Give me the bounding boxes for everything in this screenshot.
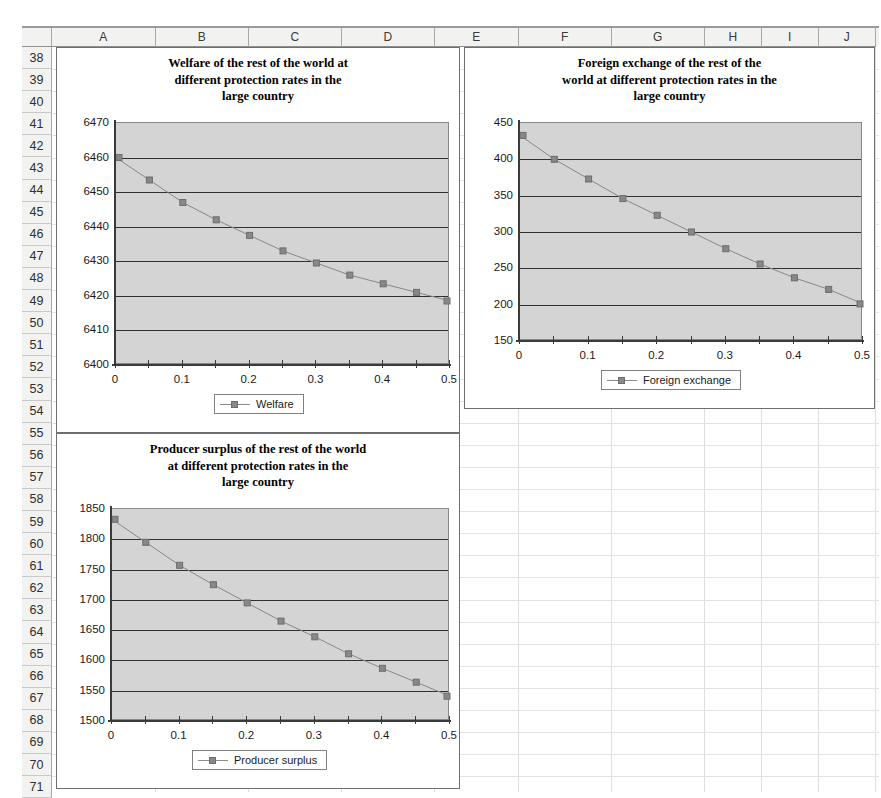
data-point-marker [723, 246, 729, 252]
legend-marker-icon [198, 756, 228, 765]
y-axis-tick-label: 1600 [57, 653, 105, 665]
data-point-marker [413, 679, 419, 685]
producer-surplus-chart-legend[interactable]: Producer surplus [192, 750, 327, 770]
row-header-50[interactable]: 50 [22, 312, 52, 334]
column-header-i[interactable]: I [762, 28, 819, 47]
data-point-marker [112, 516, 118, 522]
row-header-68[interactable]: 68 [22, 710, 52, 732]
x-axis-tick-mark [348, 716, 349, 724]
row-header-44[interactable]: 44 [22, 180, 52, 202]
row-header-38[interactable]: 38 [22, 47, 52, 69]
row-header-58[interactable]: 58 [22, 489, 52, 511]
data-point-marker [689, 229, 695, 235]
x-axis-tick-mark [381, 716, 382, 724]
row-header-55[interactable]: 55 [22, 423, 52, 445]
x-axis-tick-label: 0 [108, 729, 114, 741]
select-all-corner[interactable] [22, 28, 52, 47]
y-axis-tick-label: 1500 [57, 714, 105, 726]
x-axis-tick-mark [519, 336, 520, 344]
row-header-52[interactable]: 52 [22, 356, 52, 378]
foreign-exchange-chart-plot-area[interactable] [519, 122, 862, 340]
y-axis-line [518, 120, 520, 342]
x-axis-tick-mark [622, 336, 623, 344]
data-point-marker [551, 156, 557, 162]
spreadsheet[interactable]: ABCDEFGHIJ 38394041424344454647484950515… [22, 26, 879, 792]
data-point-marker [278, 618, 284, 624]
data-point-marker [143, 539, 149, 545]
x-axis-tick-label: 0.4 [374, 373, 390, 385]
legend-square-icon [231, 401, 238, 408]
producer-surplus-chart-title: Producer surplus of the rest of the worl… [57, 434, 459, 491]
x-axis-tick-label: 0.5 [441, 729, 457, 741]
row-header-67[interactable]: 67 [22, 688, 52, 710]
row-header-40[interactable]: 40 [22, 91, 52, 113]
row-header-69[interactable]: 69 [22, 732, 52, 754]
row-header-71[interactable]: 71 [22, 776, 52, 798]
y-axis-tick-label: 400 [465, 152, 513, 164]
data-point-marker [857, 301, 863, 307]
data-point-marker [380, 281, 386, 287]
column-header-a[interactable]: A [52, 28, 156, 47]
foreign-exchange-chart-title: Foreign exchange of the rest of theworld… [465, 48, 874, 105]
title-line: world at different protection rates in t… [487, 72, 852, 89]
welfare-chart-legend[interactable]: Welfare [214, 394, 304, 414]
row-header-59[interactable]: 59 [22, 511, 52, 533]
row-header-48[interactable]: 48 [22, 268, 52, 290]
row-header-53[interactable]: 53 [22, 378, 52, 400]
data-point-marker [244, 600, 250, 606]
row-header-62[interactable]: 62 [22, 577, 52, 599]
column-header-h[interactable]: H [705, 28, 762, 47]
legend-label: Producer surplus [234, 754, 317, 766]
column-header-j[interactable]: J [819, 28, 876, 47]
row-header-60[interactable]: 60 [22, 533, 52, 555]
y-axis-tick-label: 6410 [57, 323, 109, 335]
row-header-49[interactable]: 49 [22, 290, 52, 312]
x-axis-tick-mark [588, 336, 589, 344]
row-header-42[interactable]: 42 [22, 135, 52, 157]
x-axis-tick-mark [182, 360, 183, 368]
y-axis-tick-label: 6440 [57, 220, 109, 232]
y-axis-tick-label: 1650 [57, 623, 105, 635]
x-axis-tick-label: 0.2 [238, 729, 254, 741]
y-axis-line [110, 506, 112, 722]
welfare-chart[interactable]: Welfare of the rest of the world atdiffe… [56, 47, 460, 433]
row-header-66[interactable]: 66 [22, 666, 52, 688]
row-header-46[interactable]: 46 [22, 224, 52, 246]
row-header-63[interactable]: 63 [22, 599, 52, 621]
column-header-b[interactable]: B [156, 28, 249, 47]
producer-surplus-chart-plot-area[interactable] [111, 508, 449, 720]
row-header-61[interactable]: 61 [22, 555, 52, 577]
row-header-43[interactable]: 43 [22, 157, 52, 179]
x-axis-tick-label: 0.1 [580, 349, 596, 361]
welfare-chart-plot-area[interactable] [115, 122, 449, 364]
row-header-54[interactable]: 54 [22, 401, 52, 423]
row-header-45[interactable]: 45 [22, 202, 52, 224]
column-header-c[interactable]: C [249, 28, 342, 47]
data-point-marker [280, 248, 286, 254]
data-point-marker [757, 261, 763, 267]
foreign-exchange-chart[interactable]: Foreign exchange of the rest of theworld… [464, 47, 875, 409]
column-header-f[interactable]: F [519, 28, 612, 47]
x-axis-tick-label: 0.4 [373, 729, 389, 741]
x-axis-tick-mark [725, 336, 726, 344]
row-header-column: 3839404142434445464748495051525354555657… [22, 47, 52, 798]
row-header-57[interactable]: 57 [22, 467, 52, 489]
x-axis-tick-mark [246, 716, 247, 724]
row-header-39[interactable]: 39 [22, 69, 52, 91]
x-axis-tick-label: 0.5 [441, 373, 457, 385]
column-header-d[interactable]: D [342, 28, 435, 47]
column-header-e[interactable]: E [435, 28, 519, 47]
cell-grid[interactable]: Welfare of the rest of the world atdiffe… [52, 47, 879, 792]
foreign-exchange-chart-legend[interactable]: Foreign exchange [601, 370, 741, 390]
row-header-56[interactable]: 56 [22, 445, 52, 467]
row-header-51[interactable]: 51 [22, 334, 52, 356]
column-header-g[interactable]: G [612, 28, 705, 47]
x-axis-tick-mark [212, 716, 213, 724]
row-header-41[interactable]: 41 [22, 113, 52, 135]
y-axis-tick-label: 6460 [57, 151, 109, 163]
row-header-65[interactable]: 65 [22, 644, 52, 666]
producer-surplus-chart[interactable]: Producer surplus of the rest of the worl… [56, 433, 460, 789]
row-header-70[interactable]: 70 [22, 754, 52, 776]
row-header-47[interactable]: 47 [22, 246, 52, 268]
row-header-64[interactable]: 64 [22, 621, 52, 643]
